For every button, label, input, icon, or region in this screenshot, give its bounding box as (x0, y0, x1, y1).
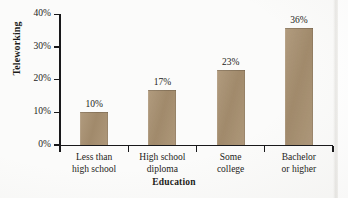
bar-chart: Teleworking 0%10%20%30%40% 10%17%23%36% … (0, 0, 348, 198)
x-category-label-line: High school (124, 152, 200, 164)
x-category-label-line: Less than (56, 152, 132, 164)
bar-value-label: 17% (139, 77, 185, 87)
bar (80, 112, 108, 145)
scan-page-margin (338, 0, 348, 198)
y-tick-mark (54, 79, 60, 80)
x-category-label: Somecollege (193, 152, 269, 175)
x-axis-title: Education (0, 177, 348, 187)
y-tick-label: 10% (11, 106, 51, 116)
x-category-label-line: diploma (124, 164, 200, 176)
y-tick-label: 30% (11, 41, 51, 51)
bar (148, 90, 176, 145)
x-category-label: High schooldiploma (124, 152, 200, 175)
bar (217, 70, 245, 145)
y-tick-mark (54, 14, 60, 15)
x-category-label-line: college (193, 164, 269, 176)
y-tick-label: 20% (11, 73, 51, 83)
bar-value-label: 36% (276, 15, 322, 25)
bar-value-label: 10% (71, 99, 117, 109)
x-category-label: Bacheloror higher (261, 152, 337, 175)
x-category-label-line: high school (56, 164, 132, 176)
y-tick-label: 0% (11, 139, 51, 149)
y-tick-mark (54, 46, 60, 47)
x-category-label-line: or higher (261, 164, 337, 176)
x-category-label-line: Bachelor (261, 152, 337, 164)
bar (285, 28, 313, 145)
x-category-label-line: Some (193, 152, 269, 164)
x-category-label: Less thanhigh school (56, 152, 132, 175)
y-tick-label: 40% (11, 8, 51, 18)
y-tick-mark (54, 112, 60, 113)
bar-value-label: 23% (208, 57, 254, 67)
